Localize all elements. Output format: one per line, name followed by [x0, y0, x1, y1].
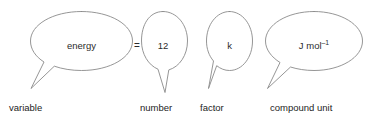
caption-compound-unit: compound unit: [270, 103, 332, 113]
bubble-text-number: 12: [146, 41, 180, 51]
equals-operator: =: [134, 41, 140, 51]
factor-base: k: [227, 40, 232, 51]
bubble-text-compound-unit: J mol–1: [265, 41, 363, 51]
caption-factor: factor: [200, 103, 224, 113]
unit-exponent: –1: [322, 39, 330, 46]
caption-variable: variable: [9, 103, 42, 113]
bubble-text-factor: k: [206, 41, 253, 51]
caption-number: number: [140, 103, 172, 113]
speech-bubble-number: [142, 12, 188, 93]
bubble-text-variable: energy: [30, 41, 133, 51]
speech-bubble-equation-figure: = energy 12 k J mol–1 variable number fa…: [0, 0, 378, 119]
unit-base: J mol: [299, 40, 322, 51]
